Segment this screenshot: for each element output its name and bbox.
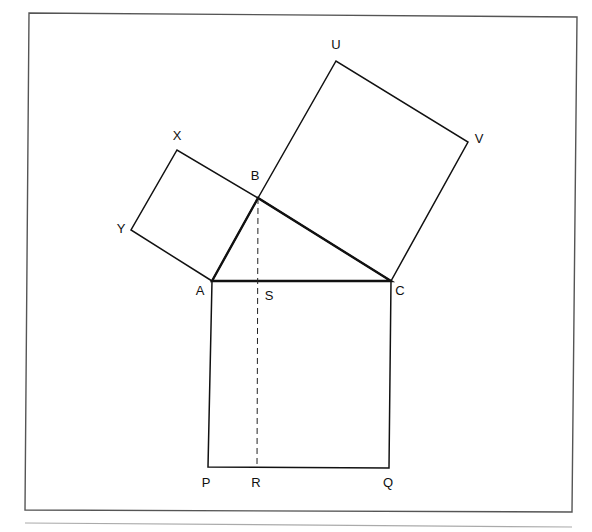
square-on-bc	[258, 61, 468, 281]
square-on-ab	[131, 150, 258, 281]
bottom-rule	[25, 523, 572, 527]
label-a: A	[196, 283, 205, 298]
figure-frame	[25, 13, 577, 512]
label-y: Y	[117, 221, 126, 236]
pythagorean-diagram: A B C S P R Q X Y U V	[0, 0, 592, 532]
label-b: B	[251, 168, 260, 183]
label-s: S	[265, 288, 274, 303]
label-c: C	[395, 283, 404, 298]
label-u: U	[331, 37, 340, 52]
label-r: R	[251, 475, 260, 490]
square-on-ac	[208, 281, 391, 468]
altitude-b-s-r	[257, 198, 258, 467]
label-v: V	[475, 131, 484, 146]
triangle-abc	[212, 198, 391, 281]
label-x: X	[173, 128, 182, 143]
label-q: Q	[383, 475, 393, 490]
label-p: P	[202, 475, 211, 490]
